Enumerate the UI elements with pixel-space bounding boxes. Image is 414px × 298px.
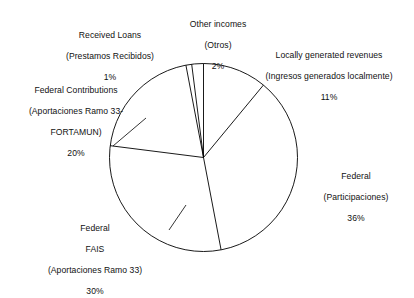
slice-label-federal-participaciones-en: Federal: [341, 171, 371, 181]
slice-label-federal-participaciones-pct: 36%: [306, 213, 406, 224]
slice-label-federal-contributions: Federal Contributions (Aportaciones Ramo…: [8, 74, 144, 169]
slice-label-locally-generated-en: Locally generated revenues: [276, 50, 383, 60]
slice-label-federal-fais-en1: Federal: [80, 223, 110, 233]
slice-label-received-loans-en: Received Loans: [79, 30, 141, 40]
slice-label-federal-contributions-en: Federal Contributions: [34, 85, 117, 95]
slice-label-federal-contributions-es2: FORTAMUN): [50, 127, 101, 137]
slice-label-federal-contributions-es1: (Aportaciones Ramo 33-: [29, 106, 123, 116]
slice-label-federal-fais-en2: FAIS: [86, 244, 105, 254]
slice-label-federal-participaciones-es: (Participaciones): [324, 192, 389, 202]
slice-label-locally-generated-es: (Ingresos generados localmente): [265, 71, 392, 81]
slice-label-received-loans-es: (Prestamos Recibidos): [66, 51, 154, 61]
slice-label-federal-participaciones: Federal (Participaciones) 36%: [306, 160, 406, 234]
slice-label-federal-fais: Federal FAIS (Aportaciones Ramo 33) 30%: [22, 212, 168, 298]
slice-label-locally-generated-revenues: Locally generated revenues (Ingresos gen…: [246, 39, 412, 113]
slice-label-federal-contributions-pct: 20%: [8, 148, 144, 159]
slice-label-other-incomes-en: Other incomes: [190, 19, 247, 29]
slice-label-locally-generated-pct: 11%: [246, 92, 412, 103]
slice-label-federal-fais-es: (Aportaciones Ramo 33): [48, 265, 142, 275]
slice-label-other-incomes-es: (Otros): [204, 40, 231, 50]
slice-label-federal-fais-pct: 30%: [22, 286, 168, 297]
